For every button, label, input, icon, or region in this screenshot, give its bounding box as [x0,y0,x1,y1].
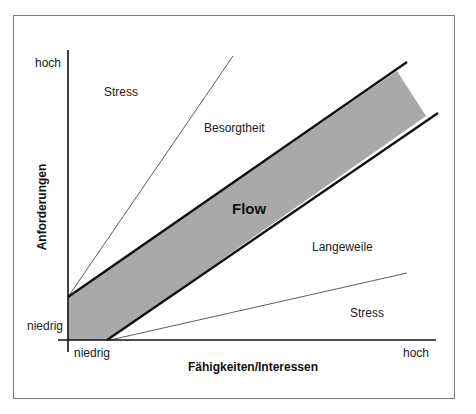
region-worry-label: Besorgtheit [204,121,265,135]
chart-frame [14,16,228,140]
figure-frame [14,16,229,140]
diagram-container: hoch niedrig niedrig hoch Anforderungen … [0,0,476,414]
frame-border [14,16,228,140]
y-axis-title: Anforderungen [35,162,49,252]
frame-rect [14,16,228,140]
region-stress-top-label: Stress [104,85,138,99]
outer-frame [14,16,228,140]
x-axis-low-label: niedrig [74,346,110,360]
frame [14,16,228,140]
x-axis-title: Fähigkeiten/Interessen [188,360,318,374]
image-frame [14,16,228,140]
region-boredom-label: Langeweile [312,240,373,254]
y-axis-high-label: hoch [35,56,61,70]
y-axis-low-label: niedrig [27,319,63,333]
figure-border [14,16,228,140]
picture-frame [14,16,228,140]
main-frame [14,16,228,140]
x-axis-high-label: hoch [403,346,429,360]
region-stress-bottom-label: Stress [350,306,384,320]
flow-lower-edge [107,113,438,340]
region-flow-label: Flow [232,200,266,217]
